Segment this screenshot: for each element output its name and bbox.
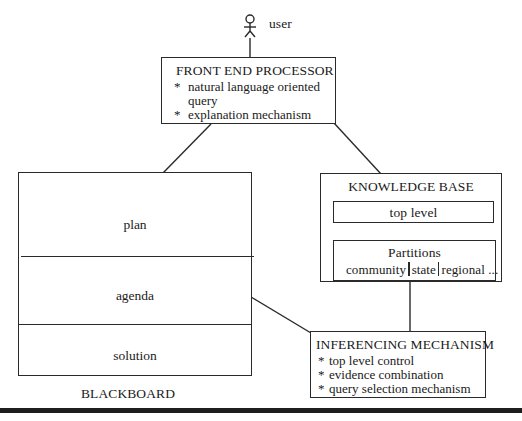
agenda-solution-divider xyxy=(19,324,251,325)
partition-state: state xyxy=(412,262,436,277)
top-level-label: top level xyxy=(334,205,493,221)
partition-separator xyxy=(408,262,410,276)
im-item-text: top level control xyxy=(329,353,414,368)
im-item: *query selection mechanism xyxy=(318,382,471,396)
im-item: *evidence combination xyxy=(318,368,443,382)
blackboard-label: BLACKBOARD xyxy=(81,386,175,402)
fep-item-text: explanation mechanism xyxy=(188,107,311,122)
bullet: * xyxy=(174,80,188,94)
inferencing-mechanism-title: INFERENCING MECHANISM xyxy=(316,337,494,353)
knowledge-base-box: KNOWLEDGE BASE top level Partitions comm… xyxy=(320,173,502,282)
blackboard-box: plan agenda solution xyxy=(18,172,252,376)
bullet: * xyxy=(318,368,329,382)
inferencing-mechanism-box: INFERENCING MECHANISM *top level control… xyxy=(310,331,486,398)
bullet: * xyxy=(174,108,188,122)
fep-to-knowledge-base-line xyxy=(334,123,381,174)
fep-item: *explanation mechanism xyxy=(174,108,311,122)
partition-regional: regional ... xyxy=(441,262,498,277)
user-actor: user xyxy=(241,13,321,41)
plan-agenda-divider xyxy=(21,256,254,257)
partition-community: community xyxy=(346,262,406,277)
front-end-processor-title: FRONT END PROCESSOR xyxy=(176,63,334,79)
bullet: * xyxy=(318,354,329,368)
partitions-list: communitystateregional ... xyxy=(346,262,498,278)
im-item-text: query selection mechanism xyxy=(329,381,471,396)
fep-to-blackboard-line xyxy=(163,124,211,173)
fep-item-text: natural language oriented xyxy=(188,79,320,94)
partitions-title: Partitions xyxy=(334,245,495,261)
stick-figure-icon xyxy=(241,13,259,40)
im-item-text: evidence combination xyxy=(329,367,443,382)
bottom-rule xyxy=(0,408,522,413)
partitions-box: Partitions communitystateregional ... xyxy=(333,240,496,281)
user-label: user xyxy=(269,16,292,32)
bullet: * xyxy=(318,382,329,396)
blackboard-section-solution: solution xyxy=(19,348,251,364)
fep-item-text: query xyxy=(188,93,218,108)
partition-separator xyxy=(438,262,440,276)
blackboard-section-plan: plan xyxy=(19,217,251,233)
fep-item: *natural language oriented xyxy=(174,80,320,94)
top-level-box: top level xyxy=(333,201,494,223)
knowledge-base-title: KNOWLEDGE BASE xyxy=(321,179,501,195)
front-end-processor-box: FRONT END PROCESSOR *natural language or… xyxy=(161,57,336,124)
im-item: *top level control xyxy=(318,354,414,368)
blackboard-section-agenda: agenda xyxy=(19,288,251,304)
blackboard-to-inferencing-line xyxy=(251,297,311,333)
fep-item: query xyxy=(174,94,218,108)
